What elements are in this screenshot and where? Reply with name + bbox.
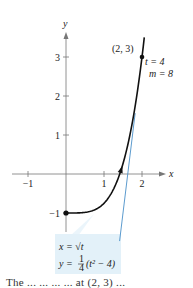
y-tick-label: 2: [55, 91, 60, 102]
equation-box-pointer: [70, 214, 94, 236]
equation-y-prefix: y =: [58, 258, 73, 269]
figure-caption: The ... ... ... ... at (2, 3) ...: [6, 276, 125, 288]
direction-arrow-icon: [118, 166, 123, 173]
y-tick-label: 1: [55, 130, 60, 141]
tangent-point: [140, 55, 145, 60]
start-point: [63, 210, 68, 215]
y-tick-label: 3: [55, 52, 60, 63]
x-tick-label: 1: [102, 178, 107, 189]
x-tick-label: −1: [23, 178, 34, 189]
y-axis-arrow-icon: [64, 32, 69, 39]
tangent-line: [120, 113, 136, 241]
t-value-annotation: t = 4: [145, 56, 165, 67]
x-axis-label: x: [168, 168, 174, 179]
y-tick-label: −1: [49, 208, 60, 219]
y-axis-label: y: [62, 18, 68, 29]
slope-annotation: m = 8: [149, 68, 173, 79]
x-axis-arrow-icon: [159, 172, 166, 177]
equation-y-frac-den: 4: [79, 262, 84, 273]
equation-x: x = √t: [58, 241, 84, 252]
x-tick-label: 2: [140, 178, 145, 189]
point-label: (2, 3): [112, 43, 134, 55]
equation-y-suffix: (t² − 4): [86, 258, 116, 270]
